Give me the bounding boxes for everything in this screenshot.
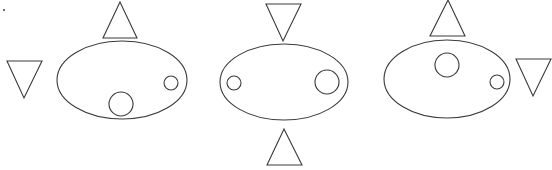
- panel-3: [384, 0, 551, 118]
- panel-1: [7, 2, 187, 119]
- oval-shape: [220, 44, 348, 120]
- top-triangle-up-shape: [103, 2, 137, 38]
- diagram-canvas: [0, 0, 552, 170]
- top-triangle-down-shape: [266, 4, 301, 41]
- small-circle-shape: [490, 75, 504, 89]
- small-circle-shape: [227, 76, 241, 90]
- left-triangle-down-shape: [7, 61, 42, 98]
- right-triangle-down-shape: [516, 59, 551, 96]
- bottom-triangle-up-shape: [267, 129, 302, 165]
- oval-shape: [57, 41, 187, 119]
- top-triangle-up-shape: [430, 0, 465, 36]
- small-circle-shape: [164, 76, 178, 90]
- large-circle-shape: [435, 53, 459, 77]
- marker-dot: [3, 9, 5, 11]
- large-circle-shape: [109, 92, 133, 116]
- panel-2: [220, 4, 348, 165]
- large-circle-shape: [315, 70, 339, 94]
